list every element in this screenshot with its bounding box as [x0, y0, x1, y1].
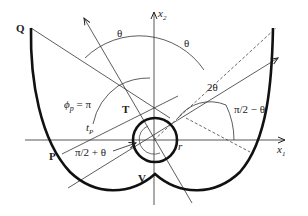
label-T: T	[122, 103, 130, 115]
label-phi-p: ϕp = π	[64, 98, 91, 113]
arc-phi	[93, 86, 118, 124]
x1-subscript: 1	[282, 150, 286, 158]
label-Q: Q	[16, 22, 25, 34]
label-r: r	[178, 140, 183, 152]
involute-diagram: Q P T V θ θ ϕp = π 2θ π/2 − θ π/2 + θ tP…	[0, 0, 308, 216]
arc-pi2-minus-theta	[226, 105, 234, 140]
label-theta-right: θ	[184, 37, 189, 49]
tp-subscript: P	[88, 128, 94, 136]
label-theta-left: θ	[117, 27, 122, 39]
arc-small-center-top	[141, 126, 148, 132]
label-2theta: 2θ	[207, 81, 218, 93]
pointer-arrow	[113, 143, 136, 151]
label-x2: x2	[157, 7, 167, 22]
label-pi2-minus-theta: π/2 − θ	[234, 103, 265, 115]
label-V: V	[138, 172, 146, 184]
dashed-line-lower	[186, 118, 250, 152]
label-x1: x1	[276, 143, 285, 158]
phi-equals: = π	[74, 98, 92, 110]
label-pi2-plus-theta: π/2 + θ	[75, 146, 106, 158]
label-P: P	[49, 150, 56, 162]
x2-subscript: 2	[163, 14, 167, 22]
